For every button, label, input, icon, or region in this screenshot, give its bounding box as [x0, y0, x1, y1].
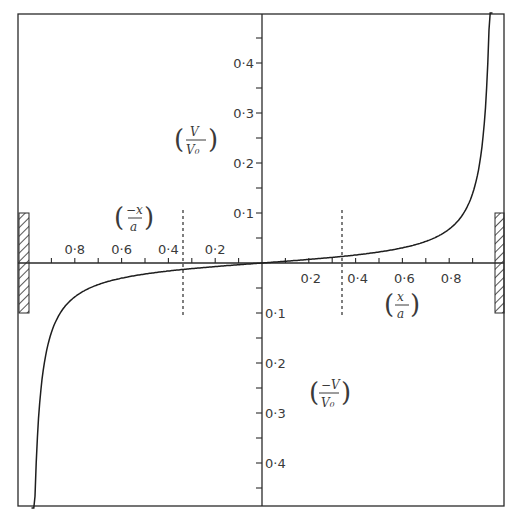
x-tick-label: 0·6	[394, 271, 415, 286]
y-tick-label: 0·4	[233, 56, 254, 71]
svg-text:): )	[208, 124, 218, 154]
x-tick-label: 0·4	[347, 271, 368, 286]
x-positive-label: ( x a )	[384, 289, 420, 321]
svg-text:−V: −V	[321, 378, 341, 392]
y-tick-label: 0·2	[265, 356, 286, 371]
svg-text:(: (	[114, 202, 124, 232]
x-tick-label: 0·6	[111, 242, 132, 257]
left-electrode	[19, 213, 29, 313]
svg-text:a: a	[130, 220, 137, 234]
y-tick-label: 0·3	[233, 106, 254, 121]
svg-text:): )	[144, 202, 154, 232]
y-tick-label: 0·1	[265, 306, 286, 321]
x-tick-label: 0·8	[64, 242, 85, 257]
y-tick-label: 0·4	[265, 456, 286, 471]
x-tick-label: 0·8	[441, 271, 462, 286]
y-tick-label: 0·3	[265, 406, 286, 421]
x-tick-label: 0·4	[158, 242, 179, 257]
svg-text:): )	[341, 377, 351, 407]
x-tick-label: 0·2	[300, 271, 321, 286]
svg-text:(: (	[384, 289, 394, 319]
svg-text:x: x	[397, 290, 404, 304]
svg-text:): )	[410, 289, 420, 319]
potential-plot: 0·20·40·60·80·80·60·40·20·10·20·30·40·10…	[0, 0, 509, 519]
svg-text:V₀: V₀	[186, 143, 200, 157]
svg-text:(: (	[174, 124, 184, 154]
y-positive-label: ( V V₀ )	[174, 124, 218, 157]
x-tick-label: 0·2	[205, 242, 226, 257]
y-tick-label: 0·1	[233, 206, 254, 221]
svg-text:−x: −x	[126, 203, 143, 217]
x-negative-label: ( −x a )	[114, 202, 154, 234]
svg-text:a: a	[397, 307, 404, 321]
svg-text:(: (	[309, 377, 319, 407]
right-electrode	[495, 213, 504, 313]
svg-text:V₀: V₀	[321, 396, 335, 410]
y-negative-label: ( −V V₀ )	[309, 377, 351, 410]
y-tick-label: 0·2	[233, 156, 254, 171]
svg-text:V: V	[190, 125, 200, 139]
